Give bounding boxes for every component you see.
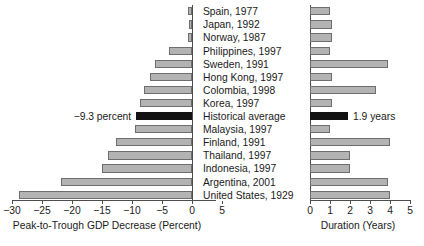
gdp-bar-track — [0, 45, 192, 58]
gdp-bar-track — [0, 71, 192, 84]
axis-tick — [350, 201, 351, 204]
gdp-decrease-bar — [116, 138, 192, 146]
duration-bar — [310, 20, 332, 28]
row-label: Sweden, 1991 — [203, 58, 269, 71]
row-label: Historical average — [203, 110, 285, 123]
row-label: Spain, 1977 — [203, 5, 258, 18]
gdp-decrease-bar — [169, 47, 192, 55]
axis-tick — [162, 201, 163, 204]
table-row: Colombia, 1998 — [0, 84, 424, 97]
row-label: Colombia, 1998 — [203, 84, 275, 97]
duration-bar-track — [310, 45, 424, 58]
table-row: −9.3 percentHistorical average1.9 years — [0, 110, 424, 123]
duration-bar-track — [310, 84, 424, 97]
row-label: Thailand, 1997 — [203, 149, 271, 162]
row-label: United States, 1929 — [203, 189, 293, 202]
duration-bar — [310, 86, 376, 94]
gdp-bar-track — [0, 176, 192, 189]
table-row: Spain, 1977 — [0, 5, 424, 18]
axis-tick — [370, 201, 371, 204]
duration-bar — [310, 164, 350, 172]
table-row: Japan, 1992 — [0, 18, 424, 31]
gdp-bar-track — [0, 31, 192, 44]
duration-bar — [310, 112, 348, 120]
duration-bar-track — [310, 71, 424, 84]
gdp-bar-track — [0, 97, 192, 110]
duration-bar-track — [310, 176, 424, 189]
gdp-decrease-bar — [140, 99, 192, 107]
row-label: Indonesia, 1997 — [203, 162, 276, 175]
gdp-bar-track — [0, 110, 192, 123]
axis-tick — [222, 201, 223, 204]
duration-bar-track — [310, 58, 424, 71]
right-axis-line — [310, 200, 411, 201]
duration-bar-track — [310, 31, 424, 44]
chart-rows: Spain, 1977Japan, 1992Norway, 1987Philip… — [0, 0, 424, 200]
duration-bar — [310, 47, 330, 55]
gdp-decrease-bar — [155, 60, 192, 68]
gdp-decrease-bar — [108, 151, 192, 159]
duration-bar-track — [310, 5, 424, 18]
table-row: Hong Kong, 1997 — [0, 71, 424, 84]
axis-tick — [192, 201, 193, 204]
row-label: Malaysia, 1997 — [203, 123, 272, 136]
row-label: Japan, 1992 — [203, 18, 260, 31]
row-label: Korea, 1997 — [203, 97, 259, 110]
table-row: Thailand, 1997 — [0, 149, 424, 162]
axis-tick — [410, 201, 411, 204]
gdp-bar-track — [0, 162, 192, 175]
row-label: Finland, 1991 — [203, 136, 265, 149]
gdp-bar-track — [0, 5, 192, 18]
left-x-axis: −30−25−20−15−10−505 Peak-to-Trough GDP D… — [0, 200, 214, 246]
duration-bar — [310, 178, 388, 186]
gdp-decrease-bar — [61, 178, 192, 186]
row-label: Norway, 1987 — [203, 31, 266, 44]
axis-tick — [102, 201, 103, 204]
crisis-severity-chart: Spain, 1977Japan, 1992Norway, 1987Philip… — [0, 0, 424, 246]
gdp-decrease-bar — [102, 164, 192, 172]
duration-bar-track — [310, 149, 424, 162]
duration-bar — [310, 138, 390, 146]
gdp-bar-track — [0, 149, 192, 162]
gdp-decrease-bar — [135, 125, 192, 133]
gdp-bar-track — [0, 123, 192, 136]
gdp-decrease-bar — [150, 73, 192, 81]
gdp-bar-track — [0, 58, 192, 71]
duration-bar-track — [310, 123, 424, 136]
gdp-bar-track — [0, 136, 192, 149]
axis-tick — [390, 201, 391, 204]
table-row: Philippines, 1997 — [0, 45, 424, 58]
table-row: Korea, 1997 — [0, 97, 424, 110]
duration-bar — [310, 125, 330, 133]
axis-tick — [72, 201, 73, 204]
table-row: Argentina, 2001 — [0, 176, 424, 189]
axis-tick — [42, 201, 43, 204]
duration-bar-track — [310, 97, 424, 110]
axis-tick — [330, 201, 331, 204]
table-row: Malaysia, 1997 — [0, 123, 424, 136]
table-row: Norway, 1987 — [0, 31, 424, 44]
right-axis-title: Duration (Years) — [292, 220, 424, 231]
axis-tick-label: 5 — [202, 205, 242, 216]
table-row: Sweden, 1991 — [0, 58, 424, 71]
row-label: Hong Kong, 1997 — [203, 71, 283, 84]
axis-tick — [132, 201, 133, 204]
gdp-decrease-bar — [188, 33, 192, 41]
duration-bar — [310, 7, 330, 15]
gdp-decrease-bar — [19, 191, 192, 199]
gdp-decrease-bar — [144, 86, 192, 94]
axis-tick — [310, 201, 311, 204]
table-row: Indonesia, 1997 — [0, 162, 424, 175]
duration-bar-track — [310, 162, 424, 175]
row-label: Philippines, 1997 — [203, 45, 281, 58]
duration-bar — [310, 99, 332, 107]
duration-bar — [310, 60, 388, 68]
axis-tick — [12, 201, 13, 204]
gdp-bar-track — [0, 84, 192, 97]
gdp-decrease-bar — [189, 20, 192, 28]
gdp-decrease-bar — [136, 112, 192, 120]
table-row: Finland, 1991 — [0, 136, 424, 149]
duration-bar — [310, 191, 390, 199]
gdp-decrease-bar — [188, 7, 192, 15]
duration-bar — [310, 151, 350, 159]
